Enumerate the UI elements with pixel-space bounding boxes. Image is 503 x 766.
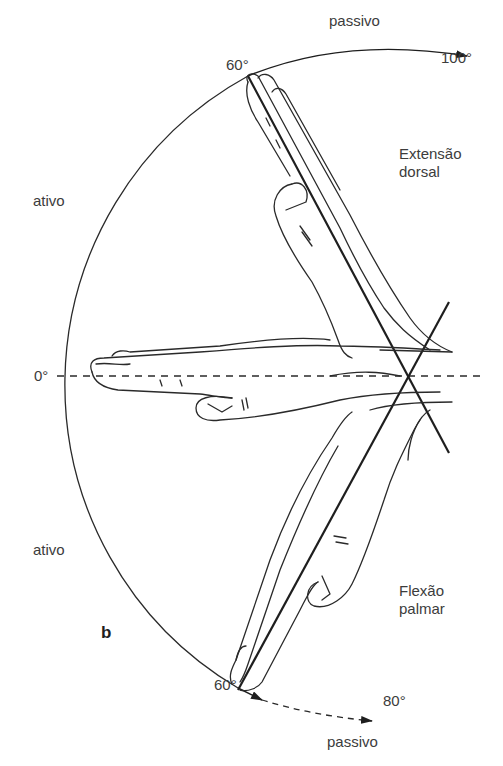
wrist-rom-illustration: [0, 0, 503, 766]
passive-bottom-label: passivo: [327, 733, 378, 751]
active-range-arc: [65, 76, 248, 688]
flexion-axis-line: [238, 302, 449, 690]
extension-active-angle-label: 60°: [226, 56, 249, 74]
active-top-label: ativo: [33, 192, 65, 210]
extension-line2: dorsal: [399, 163, 440, 180]
passive-top-label: passivo: [329, 12, 380, 30]
passive-extension-arrow: [248, 49, 467, 76]
panel-label: b: [101, 624, 111, 642]
dorsal-extension-label: Extensão dorsal: [399, 145, 489, 181]
active-bottom-label: ativo: [33, 541, 65, 559]
hand-palmar-flexion: [230, 402, 452, 691]
extension-axis-line: [248, 76, 449, 453]
palmar-flexion-label: Flexão palmar: [399, 582, 489, 618]
flexion-active-angle-label: 60°: [214, 676, 237, 694]
extension-line1: Extensão: [399, 145, 462, 162]
flexion-passive-angle-label: 80°: [383, 692, 406, 710]
flexion-line2: palmar: [399, 600, 445, 617]
flexion-line1: Flexão: [399, 582, 444, 599]
extension-passive-angle-label: 100°: [441, 49, 472, 67]
zero-degree-label: 0°: [34, 367, 48, 385]
hand-dorsal-extension: [247, 74, 452, 358]
passive-flexion-dashed-arrow: [262, 700, 372, 721]
